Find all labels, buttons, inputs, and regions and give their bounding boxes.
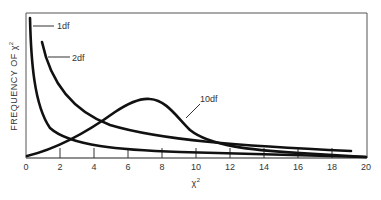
tick-label: 16 xyxy=(293,162,303,172)
x-tick-labels: 0 2 4 6 8 10 12 14 16 18 20 xyxy=(23,162,371,172)
chi-square-chart: 0 2 4 6 8 10 12 14 16 18 20 χ2 FREQUENCY… xyxy=(0,0,381,200)
tick-label: 14 xyxy=(259,162,269,172)
tick-label: 18 xyxy=(327,162,337,172)
x-axis-title: χ2 xyxy=(191,177,200,188)
y-axis-title: FREQUENCY OF χ2 xyxy=(8,41,19,131)
tick-label: 10 xyxy=(191,162,201,172)
tick-label: 2 xyxy=(57,162,62,172)
tick-label: 20 xyxy=(361,162,371,172)
label-2df: 2df xyxy=(72,53,85,63)
tick-label: 4 xyxy=(91,162,96,172)
tick-label: 6 xyxy=(125,162,130,172)
leader-10df xyxy=(186,104,200,118)
tick-label: 0 xyxy=(23,162,28,172)
tick-label: 8 xyxy=(159,162,164,172)
label-1df: 1df xyxy=(57,21,70,31)
label-10df: 10df xyxy=(200,94,218,104)
tick-label: 12 xyxy=(225,162,235,172)
